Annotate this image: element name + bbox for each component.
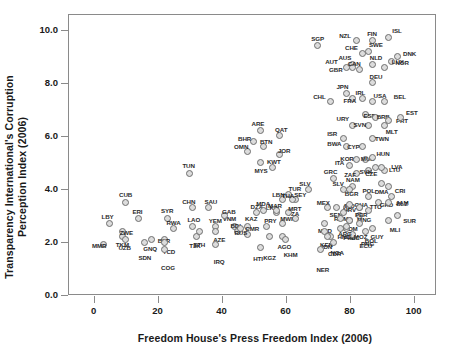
data-point bbox=[372, 114, 379, 121]
data-point bbox=[346, 186, 353, 193]
data-point bbox=[161, 246, 168, 253]
data-point bbox=[343, 143, 350, 150]
y-axis-title: Transparency International's Corruption … bbox=[0, 0, 32, 354]
data-point bbox=[356, 204, 363, 211]
data-point bbox=[122, 236, 129, 243]
scatter-chart-figure: Transparency International's Corruption … bbox=[0, 0, 451, 354]
data-point bbox=[164, 215, 171, 222]
data-point bbox=[141, 239, 148, 246]
data-point bbox=[161, 239, 168, 246]
data-point bbox=[369, 61, 376, 68]
x-tick-mark bbox=[286, 296, 287, 303]
data-point bbox=[337, 215, 344, 222]
y-tick-label: 6.0 bbox=[16, 130, 58, 141]
x-tick-label: 60 bbox=[266, 305, 306, 316]
data-point bbox=[212, 241, 219, 248]
data-point bbox=[244, 148, 251, 155]
data-point bbox=[260, 207, 267, 214]
x-tick-mark bbox=[222, 296, 223, 303]
data-point bbox=[292, 215, 299, 222]
x-tick-mark bbox=[350, 296, 351, 303]
data-point bbox=[359, 143, 366, 150]
data-point bbox=[244, 223, 251, 230]
data-point bbox=[346, 162, 353, 169]
data-point bbox=[375, 199, 382, 206]
y-tick-mark bbox=[61, 136, 68, 137]
data-point bbox=[330, 239, 337, 246]
data-point bbox=[273, 207, 280, 214]
data-point bbox=[257, 244, 264, 251]
data-point bbox=[324, 233, 331, 240]
data-point bbox=[349, 231, 356, 238]
x-tick-mark bbox=[158, 296, 159, 303]
y-tick-mark bbox=[61, 30, 68, 31]
data-point bbox=[394, 53, 401, 60]
data-point bbox=[372, 164, 379, 171]
y-tick-label: 0.0 bbox=[16, 289, 58, 300]
data-point bbox=[340, 135, 347, 142]
y-tick-label: 10.0 bbox=[16, 24, 58, 35]
data-point bbox=[381, 64, 388, 71]
data-point bbox=[369, 98, 376, 105]
data-point bbox=[257, 159, 264, 166]
x-axis-title: Freedom House's Press Freedom Index (200… bbox=[60, 330, 450, 346]
data-point bbox=[122, 199, 129, 206]
x-tick-label: 40 bbox=[202, 305, 242, 316]
data-point bbox=[263, 223, 270, 230]
data-point bbox=[119, 228, 126, 235]
data-point bbox=[148, 236, 155, 243]
data-point bbox=[362, 228, 369, 235]
data-point bbox=[260, 143, 267, 150]
y-tick-mark bbox=[61, 242, 68, 243]
data-point bbox=[385, 34, 392, 41]
y-tick-mark bbox=[61, 295, 68, 296]
data-point bbox=[385, 183, 392, 190]
data-point bbox=[324, 204, 331, 211]
y-tick-label: 2.0 bbox=[16, 236, 58, 247]
data-point bbox=[244, 231, 251, 238]
data-point bbox=[327, 98, 334, 105]
data-point bbox=[365, 48, 372, 55]
x-tick-mark bbox=[414, 296, 415, 303]
data-point bbox=[369, 154, 376, 161]
y-tick-label: 8.0 bbox=[16, 77, 58, 88]
data-point bbox=[321, 220, 328, 227]
data-point bbox=[189, 223, 196, 230]
data-point bbox=[369, 135, 376, 142]
data-point bbox=[100, 241, 107, 248]
plot-area bbox=[68, 14, 436, 295]
data-point bbox=[135, 215, 142, 222]
data-point bbox=[250, 138, 257, 145]
y-tick-mark bbox=[61, 83, 68, 84]
data-point bbox=[388, 58, 395, 65]
data-point bbox=[196, 228, 203, 235]
data-point bbox=[305, 186, 312, 193]
data-point bbox=[369, 37, 376, 44]
data-point bbox=[186, 170, 193, 177]
data-point bbox=[356, 220, 363, 227]
data-point bbox=[257, 127, 264, 134]
data-point bbox=[365, 207, 372, 214]
x-tick-label: 100 bbox=[394, 305, 434, 316]
data-point bbox=[106, 220, 113, 227]
data-point bbox=[356, 66, 363, 73]
y-tick-label: 4.0 bbox=[16, 183, 58, 194]
data-point bbox=[279, 196, 286, 203]
data-point bbox=[353, 170, 360, 177]
data-point bbox=[356, 212, 363, 219]
x-tick-mark bbox=[94, 296, 95, 303]
data-point bbox=[369, 225, 376, 232]
data-point bbox=[353, 37, 360, 44]
data-point bbox=[330, 175, 337, 182]
data-point bbox=[289, 196, 296, 203]
x-tick-label: 20 bbox=[138, 305, 178, 316]
data-point bbox=[385, 217, 392, 224]
x-tick-label: 0 bbox=[74, 305, 114, 316]
data-point bbox=[385, 199, 392, 206]
data-point bbox=[282, 236, 289, 243]
data-point bbox=[279, 220, 286, 227]
data-point bbox=[369, 79, 376, 86]
x-tick-label: 80 bbox=[330, 305, 370, 316]
y-tick-mark bbox=[61, 189, 68, 190]
data-point bbox=[212, 228, 219, 235]
